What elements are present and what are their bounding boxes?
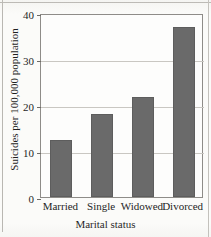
y-tick-mark	[37, 199, 41, 200]
page-border-top	[0, 2, 211, 3]
x-tick-label: Divorced	[153, 201, 211, 212]
figure-bar-chart: 010203040 MarriedSingleWidowedDivorced M…	[0, 0, 211, 237]
x-axis-title: Marital status	[0, 219, 211, 230]
bars-group	[41, 15, 202, 197]
y-tick-label: 10	[23, 148, 34, 159]
page-border-left	[2, 0, 3, 232]
bar	[132, 97, 154, 197]
plot-area: 010203040	[40, 14, 203, 198]
bar	[173, 27, 195, 197]
y-tick-label: 30	[23, 56, 34, 67]
bar	[50, 140, 72, 197]
y-tick-label: 40	[23, 10, 34, 21]
bar	[91, 114, 113, 197]
y-axis-title: Suicides per 100,000 population	[9, 12, 20, 188]
y-tick-label: 20	[23, 102, 34, 113]
